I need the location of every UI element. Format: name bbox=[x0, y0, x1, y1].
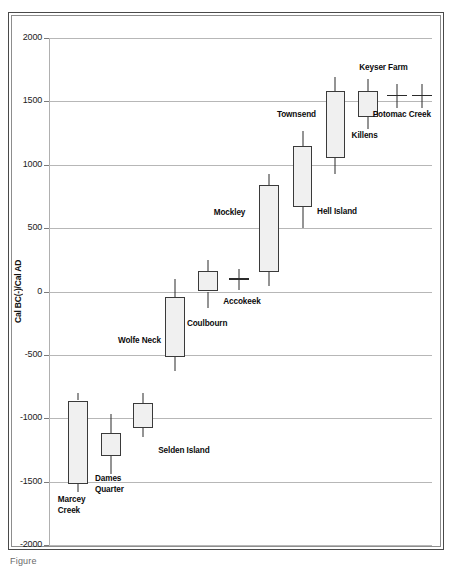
lower-whisker bbox=[207, 292, 208, 308]
box-whisker-marcey-creek[interactable] bbox=[68, 38, 88, 545]
y-axis-tick-labels: 2000150010005000-500-1000-1500-2000 bbox=[0, 38, 42, 545]
lower-whisker bbox=[396, 96, 397, 108]
median-marker bbox=[412, 95, 432, 97]
y-tick-mark bbox=[44, 482, 49, 483]
series-label-line: Marcey bbox=[58, 495, 86, 506]
lower-whisker bbox=[238, 279, 239, 290]
box-whisker-wolfe-neck[interactable] bbox=[165, 38, 185, 545]
lower-whisker bbox=[302, 207, 303, 228]
series-label-marcey-creek: MarceyCreek bbox=[58, 495, 86, 516]
series-label-line: Potomac Creek bbox=[373, 110, 431, 121]
median-marker bbox=[229, 278, 249, 280]
upper-whisker bbox=[175, 279, 176, 297]
upper-whisker bbox=[207, 260, 208, 271]
series-label-accokeek: Accokeek bbox=[223, 297, 260, 308]
box-whisker-selden-island[interactable] bbox=[133, 38, 153, 545]
lower-whisker bbox=[111, 456, 112, 474]
plot-area: MarceyCreekDamesQuarterSelden IslandWolf… bbox=[49, 38, 432, 545]
y-tick-mark bbox=[44, 228, 49, 229]
lower-whisker bbox=[175, 357, 176, 371]
lower-whisker bbox=[78, 484, 79, 492]
box-whisker-dames-quarter[interactable] bbox=[101, 38, 121, 545]
box bbox=[165, 297, 185, 358]
y-tick-label: 0 bbox=[37, 286, 42, 296]
series-label-line: Creek bbox=[58, 506, 86, 517]
y-tick-label: 1000 bbox=[23, 159, 42, 169]
series-label-wolfe-neck: Wolfe Neck bbox=[118, 336, 161, 347]
box bbox=[293, 146, 313, 207]
y-tick-mark bbox=[44, 355, 49, 356]
upper-whisker bbox=[367, 79, 368, 92]
box bbox=[326, 91, 346, 158]
series-label-line: Townsend bbox=[277, 110, 316, 121]
series-label-line: Mockley bbox=[214, 208, 246, 219]
y-tick-label: -1000 bbox=[20, 412, 42, 422]
y-tick-mark bbox=[44, 38, 49, 39]
y-tick-label: -500 bbox=[25, 349, 42, 359]
series-label-killens: Killens bbox=[352, 131, 378, 142]
series-label-keyser-farm: Keyser Farm bbox=[359, 63, 408, 74]
box bbox=[198, 271, 218, 291]
y-tick-label: 1500 bbox=[23, 95, 42, 105]
figure-caption: Figure bbox=[10, 556, 37, 566]
lower-whisker bbox=[269, 272, 270, 286]
y-tick-label: -1500 bbox=[20, 476, 42, 486]
upper-whisker bbox=[269, 174, 270, 185]
series-label-line: Keyser Farm bbox=[359, 63, 408, 74]
y-tick-mark bbox=[44, 292, 49, 293]
series-label-townsend: Townsend bbox=[277, 110, 316, 121]
series-label-dames-quarter: DamesQuarter bbox=[95, 474, 124, 495]
box bbox=[133, 403, 153, 428]
lower-whisker bbox=[422, 96, 423, 108]
upper-whisker bbox=[111, 414, 112, 433]
box-whisker-coulbourn[interactable] bbox=[198, 38, 218, 545]
upper-whisker bbox=[422, 84, 423, 96]
y-tick-mark bbox=[44, 165, 49, 166]
upper-whisker bbox=[142, 393, 143, 403]
box-whisker-townsend[interactable] bbox=[326, 38, 346, 545]
upper-whisker bbox=[396, 84, 397, 96]
y-tick-label: -2000 bbox=[20, 539, 42, 549]
series-label-line: Coulbourn bbox=[187, 319, 227, 330]
series-label-line: Accokeek bbox=[223, 297, 260, 308]
y-tick-label: 500 bbox=[28, 222, 42, 232]
series-label-line: Killens bbox=[352, 131, 378, 142]
box bbox=[68, 401, 88, 485]
series-label-line: Wolfe Neck bbox=[118, 336, 161, 347]
y-tick-mark bbox=[44, 545, 49, 546]
lower-whisker bbox=[367, 117, 368, 130]
y-tick-label: 2000 bbox=[23, 32, 42, 42]
box bbox=[259, 185, 279, 272]
lower-whisker bbox=[142, 428, 143, 437]
series-label-mockley: Mockley bbox=[214, 208, 246, 219]
y-tick-mark bbox=[44, 418, 49, 419]
series-label-line: Dames bbox=[95, 474, 124, 485]
box bbox=[101, 433, 121, 456]
upper-whisker bbox=[302, 131, 303, 147]
figure-container: Cal BC(-)/Cal AD 2000150010005000-500-10… bbox=[0, 0, 454, 572]
box-whisker-accokeek[interactable] bbox=[229, 38, 249, 545]
gridline bbox=[49, 545, 432, 546]
upper-whisker bbox=[78, 393, 79, 401]
y-tick-mark bbox=[44, 101, 49, 102]
series-label-potomac-creek: Potomac Creek bbox=[373, 110, 431, 121]
lower-whisker bbox=[335, 158, 336, 173]
median-marker bbox=[387, 95, 407, 97]
upper-whisker bbox=[335, 77, 336, 91]
series-label-line: Quarter bbox=[95, 485, 124, 496]
series-label-coulbourn: Coulbourn bbox=[187, 319, 227, 330]
